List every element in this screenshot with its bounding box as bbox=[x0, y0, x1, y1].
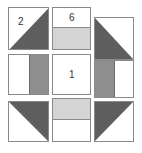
half-square-triangle bbox=[9, 8, 48, 49]
block-top-right bbox=[94, 17, 134, 60]
right-rect-medium bbox=[29, 55, 49, 94]
bottom-rect-light bbox=[53, 28, 90, 50]
block-center: 1 bbox=[52, 54, 91, 95]
bottom-rect-white bbox=[53, 120, 90, 142]
block-bottom-left bbox=[8, 101, 49, 142]
block-top-middle: 6 bbox=[52, 7, 91, 50]
left-rect-medium bbox=[95, 61, 115, 97]
block-bottom-right bbox=[94, 101, 134, 142]
top-rect-light bbox=[53, 99, 90, 120]
block-bottom-middle bbox=[52, 98, 91, 142]
block-middle-right bbox=[94, 60, 134, 98]
half-square-triangle bbox=[95, 102, 133, 141]
block-label-2: 2 bbox=[18, 17, 24, 27]
block-label-1: 1 bbox=[69, 70, 75, 80]
right-rect-white bbox=[115, 61, 134, 97]
block-top-left: 2 bbox=[8, 7, 49, 50]
half-square-triangle bbox=[95, 18, 133, 59]
half-square-triangle bbox=[9, 102, 48, 141]
block-middle-left bbox=[8, 54, 49, 95]
left-rect-white bbox=[9, 55, 29, 94]
block-label-6: 6 bbox=[69, 13, 75, 23]
